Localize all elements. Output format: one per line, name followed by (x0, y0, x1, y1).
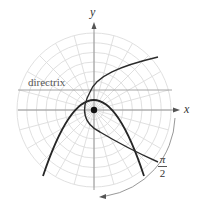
x-axis-label: x (184, 103, 189, 115)
angle-label-pi-over-2: π 2 (158, 154, 167, 179)
polar-diagram: y x directrix π 2 (0, 0, 200, 209)
y-axis-arrow-icon (92, 22, 97, 29)
rotation-arrow-icon (99, 194, 106, 199)
pole-dot (91, 107, 97, 113)
x-axis-arrow-icon (173, 108, 180, 113)
polar-diagram-svg (0, 0, 200, 209)
y-axis (92, 22, 97, 190)
angle-denominator: 2 (160, 168, 166, 179)
angle-numerator: π (160, 154, 166, 165)
directrix-label: directrix (28, 77, 65, 88)
y-axis-label: y (90, 6, 95, 18)
